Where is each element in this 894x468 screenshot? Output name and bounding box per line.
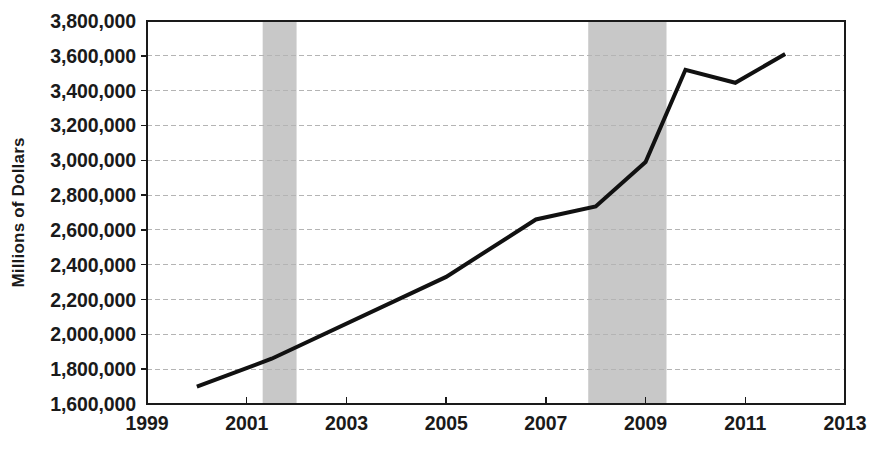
x-axis-tick-label: 2013 <box>824 412 867 434</box>
x-axis-tick-label: 2003 <box>325 412 368 434</box>
recession-band-2001 <box>263 21 297 404</box>
y-axis-tick-label: 2,000,000 <box>50 323 136 345</box>
chart-figure: 1,600,0001,800,0002,000,0002,200,0002,40… <box>0 0 894 468</box>
y-axis-tick-label: 3,400,000 <box>50 80 136 102</box>
y-axis-tick-label: 2,200,000 <box>50 289 136 311</box>
x-axis-tick-label: 2011 <box>724 412 766 434</box>
y-axis-title: Millions of Dollars <box>9 137 28 287</box>
x-axis-tick-label: 2007 <box>524 412 567 434</box>
y-axis-tick-label: 1,600,000 <box>50 393 136 415</box>
line-chart: 1,600,0001,800,0002,000,0002,200,0002,40… <box>0 0 894 468</box>
y-axis-tick-label: 3,200,000 <box>50 114 136 136</box>
y-axis-tick-label: 1,800,000 <box>50 358 136 380</box>
x-axis-tick-label: 1999 <box>126 412 169 434</box>
y-axis-tick-label: 2,600,000 <box>50 219 136 241</box>
x-axis-tick-label: 2009 <box>624 412 667 434</box>
y-axis-tick-label: 3,600,000 <box>50 45 136 67</box>
y-axis-tick-label: 2,800,000 <box>50 184 136 206</box>
x-axis-tick-label: 2005 <box>425 412 468 434</box>
y-axis-tick-label: 2,400,000 <box>50 254 136 276</box>
y-axis-tick-label: 3,000,000 <box>50 149 136 171</box>
recession-band-2008 <box>588 21 666 404</box>
x-axis-tick-label: 2001 <box>225 412 268 434</box>
y-axis-tick-label: 3,800,000 <box>50 10 136 32</box>
